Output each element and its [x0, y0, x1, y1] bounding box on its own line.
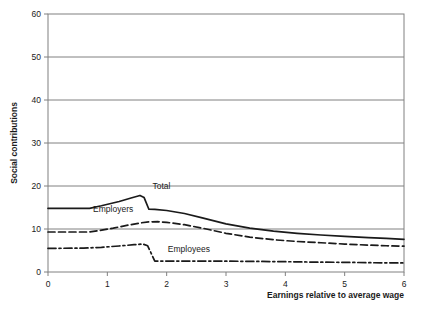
- social-contributions-line-chart: 0102030405060 0123456 TotalEmployersEmpl…: [0, 0, 421, 312]
- x-tick-label-4: 4: [283, 279, 288, 289]
- x-tick-label-3: 3: [224, 279, 229, 289]
- y-axis-title: Social contributions: [9, 102, 19, 184]
- series-label-employees: Employees: [168, 244, 210, 254]
- series-label-employers: Employers: [93, 204, 133, 214]
- x-tick-label-6: 6: [402, 279, 407, 289]
- y-tick-label-50: 50: [32, 52, 42, 62]
- chart-background: [0, 0, 421, 312]
- y-tick-label-30: 30: [32, 138, 42, 148]
- x-tick-label-0: 0: [46, 279, 51, 289]
- x-tick-label-2: 2: [164, 279, 169, 289]
- series-label-total: Total: [152, 181, 170, 191]
- y-tick-label-20: 20: [32, 181, 42, 191]
- y-tick-label-60: 60: [32, 9, 42, 19]
- x-tick-label-5: 5: [342, 279, 347, 289]
- x-axis-title: Earnings relative to average wage: [267, 290, 404, 300]
- y-tick-label-40: 40: [32, 95, 42, 105]
- y-tick-label-0: 0: [36, 267, 41, 277]
- chart-container: 0102030405060 0123456 TotalEmployersEmpl…: [0, 0, 421, 312]
- x-tick-label-1: 1: [105, 279, 110, 289]
- y-tick-label-10: 10: [32, 224, 42, 234]
